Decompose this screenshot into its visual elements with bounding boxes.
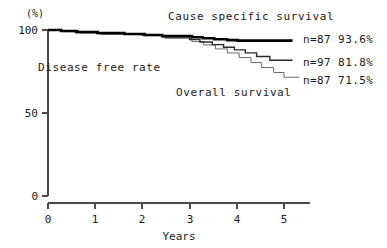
x-axis-title: Years: [162, 230, 195, 243]
x-tick-label-0: 0: [45, 213, 52, 226]
y-tick-label-50: 50: [25, 107, 38, 120]
y-axis-group: 100 50 0 (%): [18, 8, 48, 203]
annotation-overall-survival: Overall survival: [176, 86, 292, 99]
y-tick-label-100: 100: [18, 24, 38, 37]
x-tick-label-4: 4: [234, 213, 241, 226]
legend-value-cause-specific: n=87 93.6%: [303, 33, 373, 46]
legend-group: n=87 93.6% n=97 81.8% n=87 71.5%: [303, 33, 373, 87]
curve-disease-free-rate: [48, 30, 293, 60]
survival-chart-figure: 100 50 0 (%) 0 1 2 3 4 5 Years: [0, 0, 387, 248]
x-axis-group: 0 1 2 3 4 5 Years: [45, 203, 310, 243]
annotation-cause-specific-survival: Cause specific survival: [168, 10, 334, 23]
y-axis-unit-label: (%): [26, 8, 44, 19]
curve-cause-specific-survival: [48, 30, 293, 41]
x-tick-label-1: 1: [92, 213, 99, 226]
x-tick-label-5: 5: [281, 213, 288, 226]
x-tick-label-2: 2: [139, 213, 146, 226]
annotations-group: Cause specific survival Disease free rat…: [38, 10, 334, 99]
annotation-disease-free-rate: Disease free rate: [38, 61, 161, 74]
chart-canvas: 100 50 0 (%) 0 1 2 3 4 5 Years: [0, 0, 387, 248]
y-tick-label-0: 0: [31, 190, 38, 203]
legend-value-disease-free: n=97 81.8%: [303, 56, 373, 69]
legend-value-overall: n=87 71.5%: [303, 74, 373, 87]
x-tick-label-3: 3: [187, 213, 194, 226]
